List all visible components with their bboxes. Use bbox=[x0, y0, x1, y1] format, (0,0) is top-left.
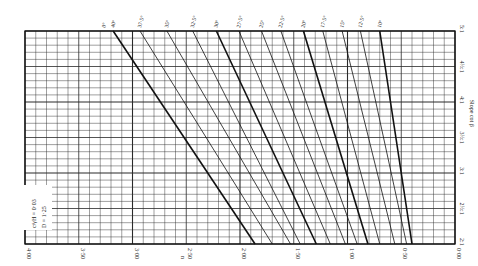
curve-label: 40° bbox=[109, 19, 117, 28]
x-tick-label: 3·50 bbox=[80, 248, 86, 259]
x-axis-title: n bbox=[180, 256, 186, 259]
x-tick-label: 0·50 bbox=[402, 248, 408, 259]
y-tick-label: 3:1 bbox=[459, 167, 465, 175]
legend-line-2: D = 1·25 bbox=[41, 206, 47, 228]
legend: c/γH = 0·03 D = 1·25 bbox=[24, 185, 52, 230]
slope-stability-chart: 40°37·5°35°32·5°30°27·5°25°22·5°20°17·5°… bbox=[0, 0, 478, 266]
curve-label: 20° bbox=[300, 19, 308, 28]
curve-label: 10° bbox=[376, 19, 384, 28]
y-tick-label: 4:1 bbox=[459, 96, 465, 104]
curve-label: 32·5° bbox=[189, 15, 198, 28]
y-tick-label: 2:1 bbox=[459, 238, 465, 246]
y-tick-label: 3½:1 bbox=[459, 132, 465, 144]
curve-label: 30° bbox=[213, 19, 221, 28]
curve-label: 35° bbox=[163, 19, 171, 28]
curve-labels: 40°37·5°35°32·5°30°27·5°25°22·5°20°17·5°… bbox=[100, 15, 383, 28]
y-tick-label: 5:1 bbox=[459, 25, 465, 33]
curve-label: 12·5° bbox=[357, 15, 366, 28]
x-tick-label: 1·50 bbox=[295, 248, 301, 259]
x-tick-label: 1·00 bbox=[349, 248, 355, 259]
x-tick-label: 2·50 bbox=[187, 248, 193, 259]
x-tick-label: 2·00 bbox=[241, 248, 247, 259]
grid bbox=[25, 31, 455, 244]
zero-degree-label: 0° bbox=[100, 22, 107, 28]
x-tick-label: 3·00 bbox=[134, 248, 140, 259]
curve-label: 17·5° bbox=[319, 15, 328, 28]
y-axis-title: Slope cot β bbox=[469, 100, 475, 127]
curve-label: 22·5° bbox=[277, 15, 286, 28]
curve-label: 27·5° bbox=[235, 15, 244, 28]
x-axis-ticks: 4·003·503·002·502·001·501·000·500·00 bbox=[26, 248, 462, 259]
x-tick-label: 0·00 bbox=[456, 248, 462, 259]
y-axis-ticks: 2:12½:13:13½:14:14½:15:1 bbox=[459, 25, 465, 246]
curve-label: 15° bbox=[338, 19, 346, 28]
y-tick-label: 4½:1 bbox=[459, 61, 465, 73]
legend-line-1: c/γH = 0·03 bbox=[31, 199, 37, 228]
legend-box bbox=[24, 185, 52, 230]
curve-label: 25° bbox=[258, 19, 266, 28]
x-tick-label: 4·00 bbox=[26, 248, 32, 259]
y-tick-label: 2½:1 bbox=[459, 203, 465, 215]
curve-label: 37·5° bbox=[136, 15, 145, 28]
